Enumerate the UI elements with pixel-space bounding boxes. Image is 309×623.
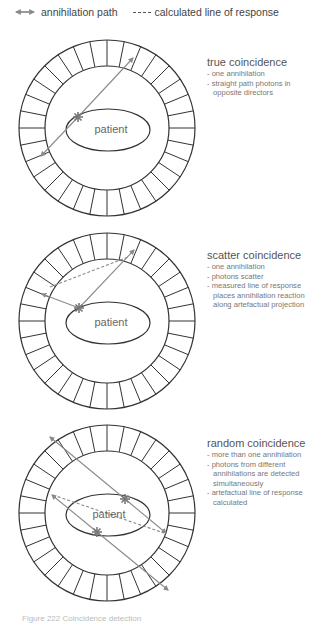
panel-description-scatter: scatter coincidence - one annihilation -… — [207, 249, 307, 310]
bullet: - one annihilation — [207, 69, 307, 79]
patient-label: patient — [92, 508, 125, 520]
panel-title: scatter coincidence — [207, 249, 307, 261]
legend-label: annihilation path — [41, 6, 117, 18]
scatter-coincidence-paths — [42, 250, 134, 313]
panel-bullets: - one annihilation - straight path photo… — [207, 69, 307, 98]
bullet: - photons scatter — [207, 272, 307, 282]
annihilation-star-icon — [120, 494, 130, 504]
bullet: - photons from different annihilations a… — [207, 460, 307, 489]
panel-title: true coincidence — [207, 56, 307, 68]
bullet: - straight path photons in opposite dire… — [207, 79, 307, 98]
annihilation-star-icon — [73, 112, 83, 122]
bullet: - more than one annihilation — [207, 450, 307, 460]
true-coincidence-paths — [41, 58, 133, 156]
legend: annihilation path calculated line of res… — [14, 6, 295, 18]
bullet: - measured line of response places annih… — [207, 281, 307, 310]
legend-label: calculated line of response — [154, 6, 278, 18]
panel-bullets: - more than one annihilation - photons f… — [207, 450, 307, 508]
patient-label: patient — [94, 316, 127, 328]
panel-description-true: true coincidence - one annihilation - st… — [207, 56, 307, 98]
annihilation-star-icon — [92, 527, 102, 537]
bullet: - one annihilation — [207, 262, 307, 272]
dashed-line-icon — [133, 12, 151, 13]
legend-item-line-of-response: calculated line of response — [133, 6, 278, 18]
legend-item-annihilation-path: annihilation path — [38, 6, 117, 18]
panel-title: random coincidence — [207, 437, 307, 449]
panel-bullets: - one annihilation - photons scatter - m… — [207, 262, 307, 310]
bullet: - artefactual line of response calculate… — [207, 488, 307, 507]
patient-label: patient — [94, 123, 127, 135]
figure-caption: Figure 222 Coincidence detection — [22, 614, 141, 623]
panel-description-random: random coincidence - more than one annih… — [207, 437, 307, 508]
annihilation-star-icon — [74, 303, 84, 313]
